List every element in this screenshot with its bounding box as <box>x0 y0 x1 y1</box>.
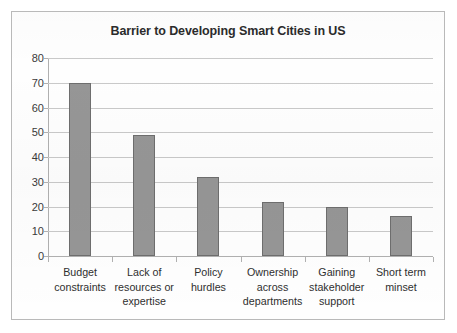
gridline <box>48 132 433 133</box>
y-axis-tick-mark <box>44 182 48 183</box>
x-axis-tick-label: Budget constraints <box>48 265 112 294</box>
y-axis-tick-mark <box>44 132 48 133</box>
y-axis-tick-label: 50 <box>14 126 44 138</box>
bar <box>69 83 91 256</box>
gridline <box>48 58 433 59</box>
bar <box>133 135 155 256</box>
gridline <box>48 231 433 232</box>
x-axis-tick-label: Gaining stakeholder support <box>305 265 369 309</box>
x-axis-tick-mark <box>305 257 306 262</box>
x-axis-tick-mark <box>48 257 49 262</box>
gridline <box>48 207 433 208</box>
y-axis-tick-label: 30 <box>14 176 44 188</box>
x-axis-tick-label: Policy hurdles <box>176 265 240 294</box>
x-axis-tick-label: Short term minset <box>369 265 433 294</box>
bar <box>326 207 348 257</box>
plot-area <box>48 58 433 256</box>
gridline <box>48 182 433 183</box>
x-axis-labels: Budget constraintsLack of resources or e… <box>48 265 433 319</box>
y-axis-tick-mark <box>44 207 48 208</box>
x-axis-tick-mark <box>433 257 434 262</box>
y-axis-tick-mark <box>44 108 48 109</box>
gridline <box>48 157 433 158</box>
y-axis-tick-label: 10 <box>14 225 44 237</box>
y-axis-tick-label: 80 <box>14 52 44 64</box>
x-axis-tick-label: Lack of resources or expertise <box>112 265 176 309</box>
gridline <box>48 108 433 109</box>
y-axis-tick-mark <box>44 83 48 84</box>
x-axis-tick-mark <box>241 257 242 262</box>
bar <box>262 202 284 256</box>
bar <box>390 216 412 256</box>
y-axis-tick-label: 20 <box>14 201 44 213</box>
y-axis-tick-label: 60 <box>14 102 44 114</box>
gridline <box>48 83 433 84</box>
y-axis-tick-label: 0 <box>14 250 44 262</box>
y-axis-tick-mark <box>44 231 48 232</box>
y-axis-tick-mark <box>44 58 48 59</box>
y-axis-labels: 01020304050607080 <box>12 58 44 256</box>
chart-title: Barrier to Developing Smart Cities in US <box>12 24 444 38</box>
y-axis-tick-label: 70 <box>14 77 44 89</box>
y-axis-tick-mark <box>44 157 48 158</box>
x-axis-tick-mark <box>176 257 177 262</box>
chart-container: Barrier to Developing Smart Cities in US… <box>11 11 445 320</box>
x-axis-tick-mark <box>369 257 370 262</box>
x-axis-tick-mark <box>112 257 113 262</box>
x-axis-tick-label: Ownership across departments <box>241 265 305 309</box>
bar <box>197 177 219 256</box>
y-axis-tick-label: 40 <box>14 151 44 163</box>
